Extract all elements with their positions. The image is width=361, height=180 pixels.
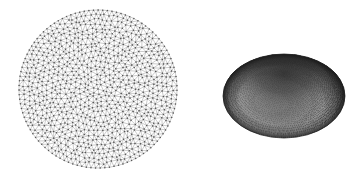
- figure-canvas: Triangular mesh of a disk and its mappin…: [0, 0, 361, 180]
- ellipsoid-rim-shading: [223, 54, 345, 138]
- mesh-figure-svg-wrapper: [0, 0, 361, 180]
- figure-svg: [0, 0, 361, 180]
